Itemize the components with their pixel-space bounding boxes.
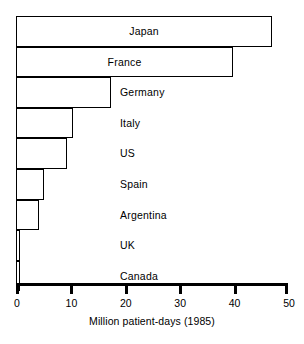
bar-row: Germany [0, 77, 304, 108]
x-tick-40 [234, 283, 237, 294]
bar-chart: JapanFranceGermanyItalyUSSpainArgentinaU… [0, 0, 304, 344]
bar-row: France [0, 47, 304, 78]
x-tick-30 [179, 283, 182, 294]
bar-row: Argentina [0, 200, 304, 231]
bar-label-italy: Italy [120, 108, 140, 139]
x-tick-label-0: 0 [2, 297, 32, 309]
bar-label-uk: UK [120, 230, 135, 261]
x-axis-title: Million patient-days (1985) [0, 315, 304, 327]
bar-germany [16, 77, 111, 108]
bar-row: Japan [0, 16, 304, 47]
bar-spain [16, 169, 44, 200]
bar-row: US [0, 138, 304, 169]
bar-italy [16, 108, 73, 139]
bar-row: Italy [0, 108, 304, 139]
bar-us [16, 138, 67, 169]
x-tick-label-20: 20 [111, 297, 141, 309]
bar-uk [16, 230, 20, 261]
x-tick-50 [285, 283, 288, 294]
bar-label-france: France [16, 47, 233, 78]
bar-argentina [16, 200, 39, 231]
x-tick-label-50: 50 [274, 297, 304, 309]
bar-label-japan: Japan [16, 16, 272, 47]
bar-label-argentina: Argentina [120, 200, 167, 231]
bar-label-us: US [120, 138, 135, 169]
x-tick-label-40: 40 [220, 297, 250, 309]
bar-row: Spain [0, 169, 304, 200]
bar-label-germany: Germany [120, 77, 165, 108]
axis-line [16, 283, 288, 286]
plot-area: JapanFranceGermanyItalyUSSpainArgentinaU… [0, 0, 304, 280]
x-tick-20 [125, 283, 128, 294]
x-tick-0 [16, 283, 19, 294]
x-tick-label-30: 30 [165, 297, 195, 309]
bar-label-spain: Spain [120, 169, 148, 200]
bar-row: UK [0, 230, 304, 261]
x-tick-10 [70, 283, 73, 294]
x-axis [0, 283, 304, 297]
x-tick-label-10: 10 [56, 297, 86, 309]
